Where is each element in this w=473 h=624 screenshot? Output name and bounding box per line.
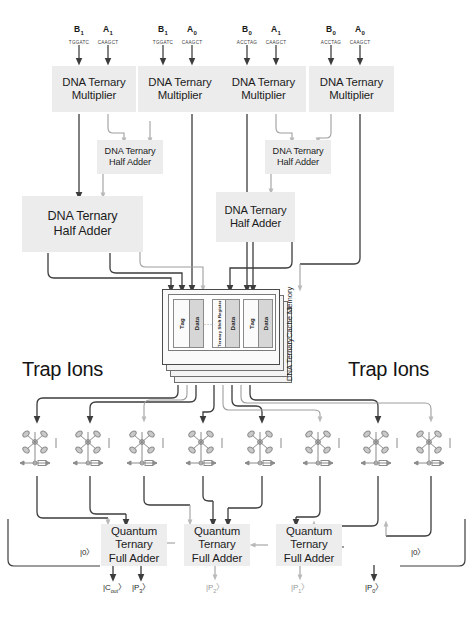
trap-ion-unit-2[interactable]	[121, 422, 167, 474]
trap-ion-icon	[14, 422, 60, 474]
multiplier-label-line2: Multiplier	[72, 89, 117, 102]
input-sequence: CAAGCT	[340, 39, 380, 46]
full-adder-label-line1: Quantum	[286, 525, 332, 538]
output-close: 〉	[142, 583, 150, 592]
output-product-0: |P0〉	[365, 581, 383, 594]
diagram-canvas: B1 TGGATC A1 CAAGCT B1 TGGATC A0 CAAGCT …	[0, 0, 473, 624]
full-adder-label-line2: Ternary	[290, 538, 327, 551]
multiplier-label-line1: DNA Ternary	[62, 76, 125, 89]
output-close: 〉	[118, 583, 126, 592]
half-adder-label-line2: Half Adder	[230, 217, 281, 230]
input-sequence: CAAGCT	[256, 39, 296, 46]
half-adder-label-line2: Half Adder	[277, 157, 319, 168]
trap-ion-icon	[355, 422, 401, 474]
full-adder-label-line1: Quantum	[194, 525, 240, 538]
dna-ternary-multiplier-0[interactable]: DNA Ternary Multiplier	[52, 66, 136, 112]
trap-ion-icon	[180, 422, 226, 474]
trap-ions-label-right: Trap Ions	[348, 358, 429, 381]
dna-ternary-cache-memory[interactable]: Tag Data ... Ternary Shift Register Data…	[160, 289, 295, 385]
trap-ion-unit-7[interactable]	[408, 422, 454, 474]
cache-cell-label: Data	[229, 317, 236, 331]
trap-ion-unit-5[interactable]	[297, 422, 343, 474]
half-adder-label-line1: DNA Ternary	[47, 209, 117, 224]
trap-ions-label-left: Trap Ions	[22, 358, 103, 381]
input-sequence: CAAGCT	[88, 39, 128, 46]
quantum-ternary-full-adder-1[interactable]: Quantum Ternary Full Adder	[184, 524, 250, 566]
full-adder-label-line3: Full Adder	[284, 552, 334, 565]
cache-cell-label: Tag	[178, 318, 185, 329]
output-product-2: |P2〉	[206, 581, 224, 594]
dna-ternary-half-adder-3[interactable]: DNA Ternary Half Adder	[216, 192, 295, 242]
multiplier-label-line1: DNA Ternary	[148, 76, 211, 89]
cache-cell-data-2[interactable]: Data	[258, 299, 273, 348]
cache-cell-label: Tag	[248, 318, 255, 329]
multiplier-label-line1: DNA Ternary	[232, 76, 295, 89]
full-adder-label-line3: Full Adder	[192, 552, 242, 565]
cache-front-panel: Tag Data ... Ternary Shift Register Data…	[162, 289, 280, 365]
input-sequence: CAAGCT	[172, 39, 212, 46]
half-adder-label-line1: DNA Ternary	[273, 146, 324, 157]
cache-title-line2: Memory	[285, 287, 294, 314]
cache-cell-data-0[interactable]: Data	[189, 299, 204, 348]
input-pin-3: A0 CAAGCT	[172, 24, 212, 46]
multiplier-label-line2: Multiplier	[158, 89, 203, 102]
output-close: 〉	[375, 583, 383, 592]
input-pin-5: A1 CAAGCT	[256, 24, 296, 46]
output-close: 〉	[301, 583, 309, 592]
trap-ion-unit-0[interactable]	[14, 422, 60, 474]
ancilla-input-right: |0〉	[411, 546, 425, 557]
cache-cell-label: Data	[193, 317, 200, 331]
trap-ion-icon	[408, 422, 454, 474]
input-pin-1: A1 CAAGCT	[88, 24, 128, 46]
cache-title-line1: DNA TernaryCache	[285, 316, 294, 381]
trap-ion-unit-6[interactable]	[355, 422, 401, 474]
dna-ternary-half-adder-2[interactable]: DNA Ternary Half Adder	[265, 140, 331, 174]
dna-ternary-multiplier-1[interactable]: DNA Ternary Multiplier	[138, 66, 222, 112]
quantum-ternary-full-adder-2[interactable]: Quantum Ternary Full Adder	[276, 524, 342, 566]
cache-cell-data-1[interactable]: Data	[225, 299, 240, 348]
multiplier-label-line2: Multiplier	[329, 89, 374, 102]
full-adder-label-line2: Ternary	[198, 538, 235, 551]
trap-ion-icon	[297, 422, 343, 474]
output-product-1: |P1〉	[291, 581, 309, 594]
input-symbol: A0	[172, 24, 212, 38]
half-adder-label-line1: DNA Ternary	[224, 204, 286, 217]
output-product-3: |P3〉	[132, 581, 150, 594]
trap-ion-unit-1[interactable]	[67, 422, 113, 474]
quantum-ternary-full-adder-0[interactable]: Quantum Ternary Full Adder	[101, 524, 167, 566]
dna-ternary-half-adder-1[interactable]: DNA Ternary Half Adder	[22, 196, 143, 252]
dna-ternary-multiplier-2[interactable]: DNA Ternary Multiplier	[221, 66, 306, 112]
cache-cell-tag-0[interactable]: Tag	[173, 299, 190, 348]
half-adder-label-line2: Half Adder	[54, 224, 112, 239]
cache-shift-register[interactable]: Ternary Shift Register	[212, 299, 226, 348]
trap-ion-unit-3[interactable]	[180, 422, 226, 474]
output-subscript: out	[111, 588, 118, 594]
input-pin-7: A0 CAAGCT	[340, 24, 380, 46]
cache-inner-frame: Tag Data ... Ternary Shift Register Data…	[168, 294, 276, 351]
trap-ion-icon	[239, 422, 285, 474]
input-symbol: A0	[340, 24, 380, 38]
multiplier-label-line2: Multiplier	[241, 89, 286, 102]
full-adder-label-line2: Ternary	[115, 538, 152, 551]
cache-cell-label: Data	[262, 317, 269, 331]
input-symbol: A1	[88, 24, 128, 38]
multiplier-label-line1: DNA Ternary	[320, 76, 383, 89]
half-adder-label-line1: DNA Ternary	[105, 146, 156, 157]
shift-register-label: Ternary Shift Register	[217, 300, 222, 347]
half-adder-label-line2: Half Adder	[109, 157, 151, 168]
input-symbol: A1	[256, 24, 296, 38]
output-carry-out: |Cout〉	[103, 581, 126, 594]
trap-ion-unit-4[interactable]	[239, 422, 285, 474]
full-adder-label-line1: Quantum	[111, 525, 157, 538]
full-adder-label-line3: Full Adder	[109, 552, 159, 565]
output-close: 〉	[216, 583, 224, 592]
cache-cell-tag-1[interactable]: Tag	[243, 299, 259, 348]
trap-ion-icon	[67, 422, 113, 474]
ancilla-input-left: |0〉	[80, 546, 94, 557]
cache-memory-title: DNA TernaryCache Memory	[285, 287, 294, 381]
output-symbol: |C	[103, 583, 111, 592]
dna-ternary-multiplier-3[interactable]: DNA Ternary Multiplier	[309, 66, 394, 112]
trap-ion-icon	[121, 422, 167, 474]
dna-ternary-half-adder-0[interactable]: DNA Ternary Half Adder	[97, 140, 163, 174]
